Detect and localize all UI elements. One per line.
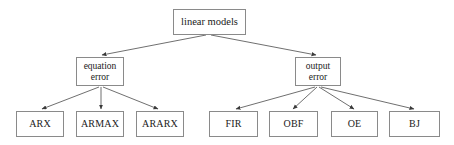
edge-equation-arx	[42, 87, 99, 109]
node-ararx: ARARX	[136, 111, 184, 137]
edge-output-oe	[319, 87, 354, 109]
node-label-oe: OE	[348, 118, 362, 129]
edge-root-output	[211, 35, 316, 55]
node-equation-error: equation error	[76, 57, 124, 86]
node-label-equation-error-line1: equation	[84, 61, 117, 72]
node-linear-models: linear models	[173, 9, 246, 35]
node-arx: ARX	[16, 111, 64, 137]
node-label-ararx: ARARX	[142, 118, 178, 129]
node-label-equation-error-line2: error	[91, 72, 109, 83]
node-fir: FIR	[209, 111, 258, 137]
edge-root-equation	[102, 35, 206, 55]
node-label-bj: BJ	[409, 118, 420, 129]
node-bj: BJ	[389, 111, 440, 137]
linear-models-taxonomy-diagram: linear models equation error output erro…	[0, 0, 454, 145]
node-label-obf: OBF	[283, 118, 303, 129]
node-label-armax: ARMAX	[81, 118, 119, 129]
node-armax: ARMAX	[76, 111, 124, 137]
edge-output-fir	[236, 87, 315, 109]
edge-equation-ararx	[103, 87, 158, 109]
node-label-output-error-line1: output	[306, 61, 330, 72]
edge-output-obf	[293, 87, 317, 109]
node-label-output-error-line2: error	[309, 72, 327, 83]
node-oe: OE	[331, 111, 378, 137]
edge-output-bj	[321, 87, 414, 109]
node-obf: OBF	[269, 111, 318, 137]
node-label-linear-models: linear models	[181, 16, 238, 28]
node-label-arx: ARX	[29, 118, 51, 129]
node-output-error: output error	[295, 57, 341, 86]
node-label-fir: FIR	[225, 118, 241, 129]
